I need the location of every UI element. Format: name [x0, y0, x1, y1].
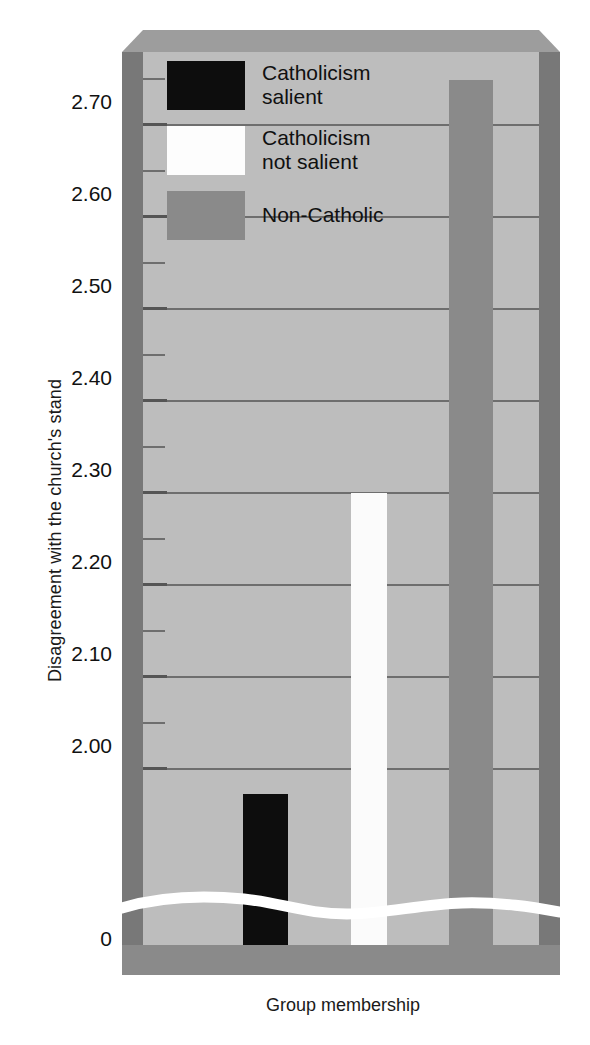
minor-tick-2-45: [143, 354, 165, 356]
major-tick-2-40: [143, 399, 167, 402]
major-tick-2-50: [143, 307, 167, 310]
major-tick-2-30: [143, 491, 167, 494]
y-axis-tick-labels: 2.70 2.60 2.50 2.40 2.30 2.20 2.10 2.00 …: [26, 0, 112, 1045]
y-tick-label-2-50: 2.50: [26, 275, 112, 296]
legend-label-catholicism-not-salient: Catholicism not salient: [262, 126, 371, 173]
y-tick-label-2-10: 2.10: [26, 643, 112, 664]
y-tick-label-zero: 0: [26, 928, 112, 949]
y-tick-label-2-70: 2.70: [26, 91, 112, 112]
legend-item-catholicism-not-salient: Catholicism not salient: [167, 123, 457, 177]
chart-legend: Catholicism salient Catholicism not sali…: [167, 58, 457, 253]
legend-swatch-gray-icon: [167, 191, 245, 240]
legend-swatch-white-icon: [167, 126, 245, 175]
minor-tick-2-25: [143, 538, 165, 540]
chart-top-bevel: [122, 30, 560, 52]
minor-tick-2-55: [143, 262, 165, 264]
legend-label-non-catholic: Non-Catholic: [262, 203, 383, 227]
y-tick-label-2-20: 2.20: [26, 551, 112, 572]
minor-tick-2-35: [143, 446, 165, 448]
chart-left-wall: [122, 52, 143, 975]
minor-tick-2-15: [143, 630, 165, 632]
major-tick-2-70: [143, 123, 167, 126]
bar-catholicism-not-salient: [351, 493, 387, 945]
chart-floor: [122, 945, 560, 975]
y-tick-label-2-00: 2.00: [26, 735, 112, 756]
legend-item-catholicism-salient: Catholicism salient: [167, 58, 457, 112]
minor-tick-2-75: [143, 78, 165, 80]
legend-label-catholicism-salient: Catholicism salient: [262, 61, 371, 108]
legend-item-non-catholic: Non-Catholic: [167, 188, 457, 242]
y-tick-label-2-30: 2.30: [26, 459, 112, 480]
chart-right-wall: [539, 52, 560, 975]
legend-swatch-black-icon: [167, 61, 245, 110]
y-tick-label-2-40: 2.40: [26, 367, 112, 388]
chart-3d-block: Catholicism salient Catholicism not sali…: [122, 30, 560, 975]
minor-tick-2-05: [143, 722, 165, 724]
major-tick-2-10: [143, 675, 167, 678]
bar-catholicism-salient: [243, 794, 288, 945]
major-tick-2-00: [143, 767, 167, 770]
major-tick-2-60: [143, 215, 167, 218]
x-axis-title: Group membership: [143, 995, 543, 1016]
major-tick-2-20: [143, 583, 167, 586]
y-tick-label-2-60: 2.60: [26, 183, 112, 204]
minor-tick-2-65: [143, 170, 165, 172]
bar-chart-figure: Disagreement with the church's stand 2.7…: [0, 0, 590, 1045]
